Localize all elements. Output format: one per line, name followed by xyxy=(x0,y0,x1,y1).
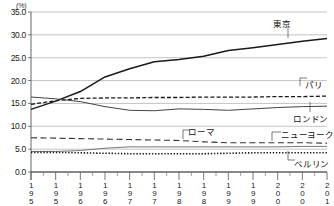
chart-canvas xyxy=(0,0,334,206)
y-tick-label: 5.0 xyxy=(0,144,26,154)
x-tick-marks xyxy=(31,172,327,180)
y-tick-label: 35.0 xyxy=(0,7,26,17)
x-tick-label: 2005 xyxy=(297,182,307,206)
series-label-パリ: パリ xyxy=(305,78,323,90)
x-tick-label: 1990 xyxy=(223,182,233,206)
x-tick-label: 1950 xyxy=(26,182,36,206)
series-label-ロンドン: ロンドン xyxy=(293,112,328,124)
x-tick-label: 1975 xyxy=(149,182,159,206)
series-label-ベルリン: ベルリン xyxy=(294,157,329,169)
x-tick-label: 1955 xyxy=(51,182,61,206)
y-tick-label: 0.0 xyxy=(0,167,26,177)
series-label-東京: 東京 xyxy=(273,17,291,29)
x-tick-label: 1980 xyxy=(174,182,184,206)
y-tick-label: 10.0 xyxy=(0,121,26,131)
x-tick-label: 1965 xyxy=(100,182,110,206)
x-tick-label: 1970 xyxy=(125,182,135,206)
y-tick-label: 15.0 xyxy=(0,98,26,108)
y-tick-label: 20.0 xyxy=(0,76,26,86)
x-tick-label: 2010 xyxy=(322,182,332,206)
y-tick-label: 30.0 xyxy=(0,30,26,40)
leader-line xyxy=(272,132,281,141)
x-tick-label: 1995 xyxy=(248,182,258,206)
series-label-ニューヨーク: ニューヨーク xyxy=(281,128,334,140)
series-label-ローマ: ローマ xyxy=(188,125,214,137)
gridlines xyxy=(31,12,327,172)
y-tick-label: 25.0 xyxy=(0,53,26,63)
x-tick-label: 1985 xyxy=(199,182,209,206)
series-line-5 xyxy=(31,152,327,153)
x-tick-label: 1960 xyxy=(75,182,85,206)
x-tick-label: 2000 xyxy=(273,182,283,206)
line-chart: (%) 0.05.010.015.020.025.030.035.0 19501… xyxy=(0,0,334,206)
series-line-1 xyxy=(31,96,327,104)
